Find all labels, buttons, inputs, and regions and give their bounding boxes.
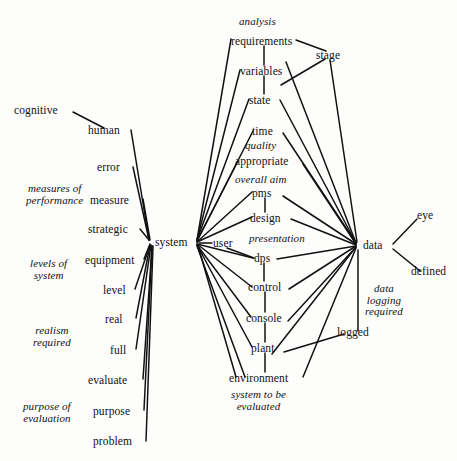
hub-node-data[interactable]: data bbox=[363, 239, 383, 251]
node-dps[interactable]: dps bbox=[254, 252, 270, 264]
annotation-data-logging-required: data logging required bbox=[365, 283, 403, 318]
node-environment[interactable]: environment bbox=[229, 372, 288, 384]
edge-data-console bbox=[288, 247, 356, 321]
edge-data-state bbox=[280, 100, 356, 243]
node-level[interactable]: level bbox=[103, 284, 126, 296]
annotation-presentation: presentation bbox=[249, 233, 305, 245]
node-defined[interactable]: defined bbox=[411, 265, 446, 277]
node-variables[interactable]: variables bbox=[240, 65, 282, 77]
node-requirements[interactable]: requirements bbox=[231, 35, 292, 47]
node-error[interactable]: error bbox=[97, 161, 120, 173]
node-design[interactable]: design bbox=[250, 212, 281, 224]
node-appropriate[interactable]: appropriate bbox=[235, 155, 288, 167]
edge-system-plant bbox=[197, 245, 252, 347]
node-user[interactable]: user bbox=[213, 237, 233, 249]
node-pms[interactable]: pms bbox=[252, 187, 271, 199]
edge-human-system bbox=[131, 130, 149, 240]
hub-node-system[interactable]: system bbox=[155, 236, 188, 248]
edge-layer bbox=[0, 0, 457, 461]
annotation-purpose-of-evaluation: purpose of evaluation bbox=[23, 401, 71, 424]
node-equipment[interactable]: equipment bbox=[85, 254, 134, 266]
node-real[interactable]: real bbox=[105, 313, 123, 325]
node-problem[interactable]: problem bbox=[93, 435, 132, 447]
annotation-levels-of-system: levels of system bbox=[30, 258, 67, 281]
node-human[interactable]: human bbox=[88, 124, 120, 136]
node-strategic[interactable]: strategic bbox=[88, 223, 128, 235]
node-logged[interactable]: logged bbox=[337, 326, 369, 338]
node-state[interactable]: state bbox=[249, 94, 271, 106]
edge-stage-data bbox=[330, 60, 357, 242]
edge-data-eye bbox=[393, 219, 417, 244]
node-console[interactable]: console bbox=[246, 312, 282, 324]
node-cognitive[interactable]: cognitive bbox=[14, 104, 58, 116]
node-eye[interactable]: eye bbox=[417, 209, 433, 221]
edge-system-environment-2 bbox=[198, 246, 236, 377]
node-plant[interactable]: plant bbox=[251, 342, 275, 354]
annotation-quality: quality bbox=[245, 140, 276, 152]
annotation-realism-required: realism required bbox=[33, 325, 71, 348]
node-time[interactable]: time bbox=[252, 125, 273, 137]
edge-stage-cross bbox=[281, 59, 325, 85]
concept-map-figure: cognitive human error measure strategic … bbox=[0, 0, 457, 461]
node-stage[interactable]: stage bbox=[316, 49, 340, 61]
edge-data-environment bbox=[303, 248, 356, 377]
annotation-overall-aim: overall aim bbox=[235, 174, 287, 186]
node-purpose[interactable]: purpose bbox=[93, 405, 130, 417]
annotation-measures-of-performance: measures of performance bbox=[26, 183, 83, 206]
edge-data-dps bbox=[277, 246, 356, 259]
node-evaluate[interactable]: evaluate bbox=[88, 374, 127, 386]
node-measure[interactable]: measure bbox=[90, 194, 129, 206]
edge-system-requirements bbox=[197, 39, 231, 240]
edge-system-variables bbox=[197, 70, 240, 240]
annotation-analysis: analysis bbox=[239, 16, 276, 28]
node-full[interactable]: full bbox=[110, 344, 126, 356]
node-control[interactable]: control bbox=[248, 281, 281, 293]
annotation-system-to-be-evaluated: system to be evaluated bbox=[231, 389, 286, 412]
